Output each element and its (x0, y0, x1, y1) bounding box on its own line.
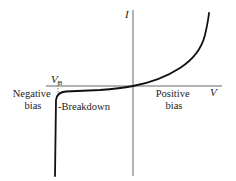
breakdown-label: -Breakdown (58, 101, 111, 112)
positive-bias-label: Positive bias (156, 88, 192, 111)
negative-bias-label: Negative bias (13, 88, 54, 111)
voltage-axis-label: V (210, 86, 218, 98)
diode-iv-diagram: I V VB Negative bias -Breakdown Positive… (0, 0, 236, 181)
current-axis-label: I (124, 8, 130, 20)
breakdown-voltage-label: VB (51, 73, 63, 87)
